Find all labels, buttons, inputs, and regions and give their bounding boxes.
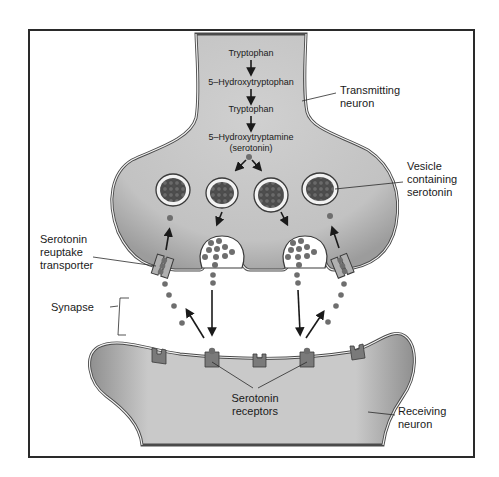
svg-text:Synapse: Synapse <box>51 301 94 313</box>
svg-text:Receiving: Receiving <box>398 405 446 417</box>
svg-text:Transmitting: Transmitting <box>340 84 400 96</box>
callout-synapse: Synapse <box>51 301 94 313</box>
svg-text:containing: containing <box>407 173 457 185</box>
pathway-step-4: 5–Hydroxytryptamine <box>208 132 293 142</box>
pathway-step-3: Tryptophan <box>228 104 273 114</box>
vesicle <box>254 178 288 212</box>
svg-text:neuron: neuron <box>398 418 432 430</box>
svg-text:Serotonin: Serotonin <box>40 233 87 245</box>
pathway-step-1: Tryptophan <box>228 48 273 58</box>
vesicle <box>156 174 190 206</box>
svg-text:neuron: neuron <box>340 97 374 109</box>
pathway-step-2: 5–Hydroxytryptophan <box>208 77 294 87</box>
release-site-right <box>283 236 327 268</box>
svg-text:reuptake: reuptake <box>40 246 83 258</box>
pathway-step-4-sub: (serotonin) <box>229 143 272 153</box>
svg-text:Vesicle: Vesicle <box>407 160 442 172</box>
release-site-left <box>200 236 244 268</box>
svg-text:transporter: transporter <box>40 259 94 271</box>
callout-receptors: Serotonin receptors <box>231 392 278 417</box>
svg-text:Serotonin: Serotonin <box>231 392 278 404</box>
vesicle <box>302 173 338 205</box>
serotonin-synapse-diagram: Tryptophan 5–Hydroxytryptophan Tryptopha… <box>0 0 499 477</box>
svg-text:receptors: receptors <box>232 405 278 417</box>
svg-text:serotonin: serotonin <box>407 186 452 198</box>
vesicle <box>206 178 238 208</box>
